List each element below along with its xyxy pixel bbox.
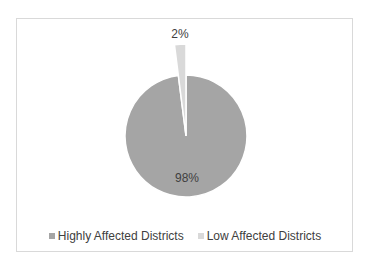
legend-swatch-icon bbox=[49, 233, 55, 239]
legend-item-highly-affected: Highly Affected Districts bbox=[49, 229, 184, 243]
legend: Highly Affected Districts Low Affected D… bbox=[0, 229, 370, 243]
pie-chart: 98%2% bbox=[0, 0, 370, 266]
data-label-low: 2% bbox=[171, 27, 189, 41]
legend-label: Highly Affected Districts bbox=[58, 229, 184, 243]
data-label-highly: 98% bbox=[175, 171, 199, 185]
legend-item-low-affected: Low Affected Districts bbox=[198, 229, 322, 243]
legend-swatch-icon bbox=[198, 233, 204, 239]
legend-label: Low Affected Districts bbox=[207, 229, 322, 243]
